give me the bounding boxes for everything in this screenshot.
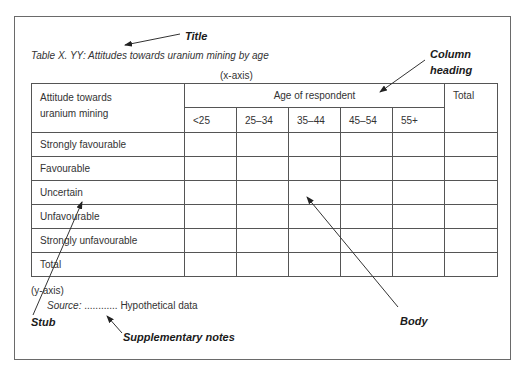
body-cell: [185, 181, 237, 205]
body-cell: [185, 253, 237, 277]
body-cell: [341, 133, 393, 157]
body-cell: [289, 229, 341, 253]
body-cell: [237, 229, 289, 253]
total-column-header: Total: [445, 84, 498, 133]
body-cell: [341, 157, 393, 181]
body-cell: [289, 181, 341, 205]
body-cell: [237, 181, 289, 205]
age-group-header: <25: [185, 108, 237, 133]
table-caption: Table X. YY: Attitudes towards uranium m…: [31, 50, 269, 61]
body-cell: [393, 133, 445, 157]
body-cell: [445, 229, 498, 253]
body-cell: [289, 253, 341, 277]
supplementary-notes-annotation: Supplementary notes: [123, 331, 235, 343]
body-cell: [393, 157, 445, 181]
row-label: Total: [32, 253, 185, 277]
source-note: Source: ............ Hypothetical data: [47, 300, 198, 311]
body-cell: [289, 157, 341, 181]
body-cell: [393, 253, 445, 277]
stub-header-line2: uranium mining: [40, 106, 184, 122]
age-group-header: 35–44: [289, 108, 341, 133]
column-heading-annotation-line2: heading: [430, 64, 472, 76]
body-cell: [393, 181, 445, 205]
body-cell: [237, 133, 289, 157]
source-text: Hypothetical data: [120, 300, 197, 311]
body-cell: [393, 229, 445, 253]
table-row: Uncertain: [32, 181, 498, 205]
row-label: Strongly unfavourable: [32, 229, 185, 253]
body-cell: [341, 205, 393, 229]
body-cell: [185, 229, 237, 253]
body-cell: [445, 205, 498, 229]
body-cell: [185, 205, 237, 229]
body-cell: [237, 253, 289, 277]
table-row: Favourable: [32, 157, 498, 181]
body-cell: [185, 133, 237, 157]
table-row: Unfavourable: [32, 205, 498, 229]
body-cell: [341, 229, 393, 253]
body-cell: [445, 157, 498, 181]
row-label: Favourable: [32, 157, 185, 181]
x-axis-label: (x-axis): [220, 70, 253, 81]
column-heading-annotation-line1: Column: [430, 48, 471, 60]
table-row: Strongly favourable: [32, 133, 498, 157]
data-table: Attitude towards uranium mining Age of r…: [31, 83, 498, 277]
row-label: Uncertain: [32, 181, 185, 205]
body-cell: [393, 205, 445, 229]
source-dots: ............: [84, 300, 117, 311]
body-cell: [237, 205, 289, 229]
age-group-header: 45–54: [341, 108, 393, 133]
stub-annotation: Stub: [31, 316, 55, 328]
body-cell: [289, 205, 341, 229]
spanner-header-age: Age of respondent: [185, 84, 445, 108]
source-label: Source:: [47, 300, 81, 311]
body-cell: [341, 181, 393, 205]
body-cell: [445, 133, 498, 157]
body-cell: [341, 253, 393, 277]
body-cell: [237, 157, 289, 181]
title-annotation: Title: [185, 30, 207, 42]
body-cell: [289, 133, 341, 157]
table-row: Strongly unfavourable: [32, 229, 498, 253]
body-annotation: Body: [400, 315, 428, 327]
body-cell: [445, 181, 498, 205]
row-label: Unfavourable: [32, 205, 185, 229]
table-row-total: Total: [32, 253, 498, 277]
stub-header-line1: Attitude towards: [40, 90, 184, 106]
age-group-header: 55+: [393, 108, 445, 133]
stub-header: Attitude towards uranium mining: [32, 84, 185, 133]
body-cell: [445, 253, 498, 277]
body-cell: [185, 157, 237, 181]
y-axis-label: (y-axis): [31, 285, 64, 296]
row-label: Strongly favourable: [32, 133, 185, 157]
age-group-header: 25–34: [237, 108, 289, 133]
